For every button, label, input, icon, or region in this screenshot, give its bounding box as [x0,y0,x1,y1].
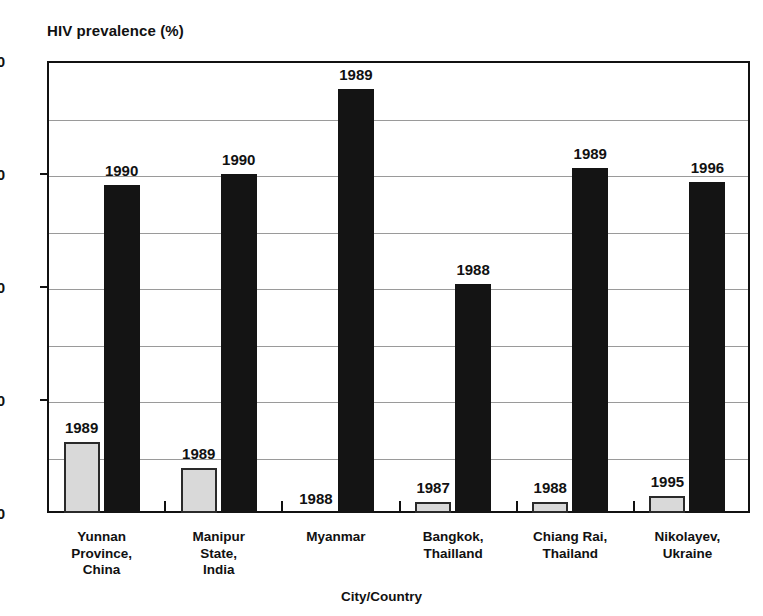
x-axis-category-label-line: Myanmar [306,529,365,546]
bar-value-label: 1989 [574,145,607,162]
x-axis-category-label-line: China [71,562,132,579]
x-axis-category-label-line: India [193,562,246,579]
x-axis-category-label-line: Province, [71,546,132,563]
x-axis-category-label-line: Chiang Rai, [533,529,607,546]
bar-value-label: 1987 [416,479,449,496]
x-axis-category-label: Nikolayev,Ukraine [655,529,721,562]
bar [104,185,140,513]
x-axis-category-label-line: Bangkok, [423,529,484,546]
x-axis-title: City/Country [0,589,763,604]
bar-value-label: 1996 [691,159,724,176]
x-axis-category-label-line: Thailand [533,546,607,563]
bar [415,502,451,513]
y-axis-tick-label: 80 [0,53,5,70]
bars-layer: 1989199019891990198819891987198819881989… [47,61,750,513]
bar-value-label: 1988 [299,490,332,507]
x-axis-tick-mark [516,501,518,513]
bar-value-label: 1988 [534,479,567,496]
x-axis-category-label-line: Yunnan [71,529,132,546]
x-axis-category-label-line: Nikolayev, [655,529,721,546]
x-axis-category-label-line: Thailland [423,546,484,563]
y-axis-tick-mark [40,286,47,288]
y-axis-tick-label: 40 [0,279,5,296]
y-axis-tick-label: 20 [0,392,5,409]
bar [64,442,100,513]
x-axis-category-label: Myanmar [306,529,365,546]
bar-value-label: 1989 [182,445,215,462]
y-axis-tick-label: 0 [0,505,5,522]
bar-value-label: 1989 [65,419,98,436]
x-axis-category-label: YunnanProvince,China [71,529,132,579]
x-axis-tick-mark [399,501,401,513]
x-axis-category-label: Chiang Rai,Thailand [533,529,607,562]
bar [455,284,491,513]
bar-value-label: 1989 [339,66,372,83]
bar-value-label: 1995 [651,473,684,490]
bar [532,502,568,513]
x-axis-tick-mark [281,501,283,513]
bar [649,496,685,513]
x-axis-tick-mark [164,501,166,513]
bar [572,168,608,513]
x-axis-category-label: ManipurState,India [193,529,246,579]
bar [221,174,257,513]
y-axis-tick-mark [40,173,47,175]
x-axis-category-label: Bangkok,Thailland [423,529,484,562]
hiv-prevalence-bar-chart: HIV prevalence (%) 020406080 19891990198… [0,0,763,616]
x-axis-category-label-line: Ukraine [655,546,721,563]
y-axis-tick-label: 60 [0,166,5,183]
x-axis-category-label-line: Manipur [193,529,246,546]
bar [338,89,374,513]
bar-value-label: 1990 [105,162,138,179]
bar-value-label: 1990 [222,151,255,168]
x-axis-category-label-line: State, [193,546,246,563]
y-axis-tick-mark [40,399,47,401]
y-axis-title: HIV prevalence (%) [47,22,184,39]
bar [181,468,217,513]
bar-value-label: 1988 [456,261,489,278]
bar [689,182,725,513]
x-axis-tick-mark [633,501,635,513]
